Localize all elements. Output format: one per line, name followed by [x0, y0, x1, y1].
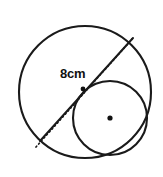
measurement-label: 8cm — [60, 66, 85, 81]
small-circle-center-dot — [107, 115, 112, 120]
tangent-point-dot — [81, 87, 86, 92]
geometry-figure-svg: 8cm — [0, 0, 163, 177]
geometry-figure-container: 8cm — [0, 0, 163, 177]
